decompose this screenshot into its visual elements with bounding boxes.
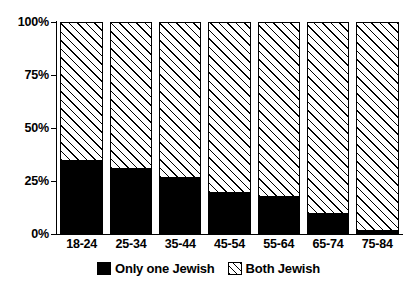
x-axis-label-18-24: 18-24 [57, 238, 106, 251]
bar-segment-both-jewish-75-84[interactable] [356, 22, 398, 230]
chart-legend: Only one Jewish Both Jewish [0, 262, 417, 275]
bar-group-18-24[interactable] [60, 22, 102, 234]
x-axis-label-25-34: 25-34 [106, 238, 155, 251]
bar-segment-both-jewish-45-54[interactable] [208, 22, 250, 192]
bar-segment-both-jewish-65-74[interactable] [307, 22, 349, 213]
legend-item-only-one-jewish[interactable]: Only one Jewish [97, 262, 215, 275]
y-axis-label-0: 0% [1, 228, 49, 241]
legend-label-only-one-jewish: Only one Jewish [115, 262, 215, 275]
bar-segment-both-jewish-55-64[interactable] [258, 22, 300, 196]
bar-segment-only-one-jewish-25-34[interactable] [110, 168, 152, 234]
x-axis-label-75-84: 75-84 [353, 238, 402, 251]
y-axis-label-25: 25% [1, 175, 49, 188]
x-axis-label-55-64: 55-64 [254, 238, 303, 251]
bar-segment-only-one-jewish-45-54[interactable] [208, 192, 250, 234]
bar-segment-both-jewish-18-24[interactable] [60, 22, 102, 160]
bar-group-35-44[interactable] [159, 22, 201, 234]
x-axis-label-45-54: 45-54 [205, 238, 254, 251]
x-axis-line [56, 234, 403, 235]
bar-segment-only-one-jewish-18-24[interactable] [60, 160, 102, 234]
bar-group-25-34[interactable] [110, 22, 152, 234]
diagonal-hatch-swatch-icon [228, 262, 242, 275]
legend-label-both-jewish: Both Jewish [246, 262, 320, 275]
solid-black-swatch-icon [97, 262, 111, 275]
bar-segment-only-one-jewish-75-84[interactable] [356, 230, 398, 234]
stacked-bar-chart: 100% 75% 50% 25% 0% 18-2425-3435-4445-54… [0, 0, 417, 293]
bar-segment-both-jewish-35-44[interactable] [159, 22, 201, 177]
bar-group-65-74[interactable] [307, 22, 349, 234]
bar-segment-only-one-jewish-35-44[interactable] [159, 177, 201, 234]
legend-item-both-jewish[interactable]: Both Jewish [228, 262, 320, 275]
y-axis-label-50: 50% [1, 122, 49, 135]
x-axis-label-35-44: 35-44 [156, 238, 205, 251]
x-axis-label-65-74: 65-74 [303, 238, 352, 251]
y-axis-label-75: 75% [1, 69, 49, 82]
plot-area [57, 22, 402, 234]
bar-group-45-54[interactable] [208, 22, 250, 234]
bar-segment-both-jewish-25-34[interactable] [110, 22, 152, 168]
bar-segment-only-one-jewish-55-64[interactable] [258, 196, 300, 234]
y-axis-label-100: 100% [1, 16, 49, 29]
bar-group-75-84[interactable] [356, 22, 398, 234]
bar-group-55-64[interactable] [258, 22, 300, 234]
bar-segment-only-one-jewish-65-74[interactable] [307, 213, 349, 234]
